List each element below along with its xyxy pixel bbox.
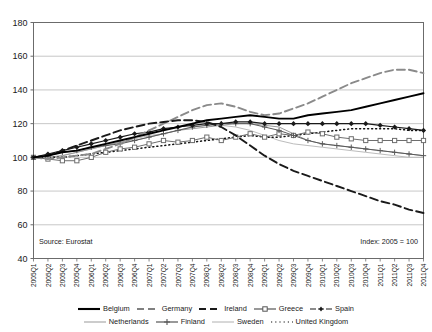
data-point-marker <box>393 138 397 142</box>
x-tick-label: 2010Q2 <box>333 263 341 287</box>
data-point-marker <box>263 135 267 139</box>
x-tick-label: 2006Q2 <box>102 263 110 287</box>
legend-swatch <box>271 318 293 326</box>
y-tick-label: 40 <box>17 254 27 264</box>
x-tick-label: 2010Q4 <box>362 263 370 287</box>
x-tick-label: 2011Q1 <box>377 263 385 286</box>
legend-swatch <box>254 305 276 313</box>
data-point-marker <box>335 135 339 139</box>
legend-swatch <box>78 305 100 313</box>
x-tick-label: 2007Q1 <box>146 263 154 287</box>
x-tick-label: 2009Q2 <box>276 263 284 287</box>
x-tick-label: 2005Q1 <box>30 263 38 287</box>
legend-row-secondary: NetherlandsFinlandSwedenUnited Kingdom <box>0 315 432 328</box>
x-tick-label: 2008Q3 <box>232 263 240 287</box>
legend-item-germany[interactable]: Germany <box>137 305 192 313</box>
legend-item-netherlands[interactable]: Netherlands <box>84 318 149 326</box>
x-tick-label: 2010Q3 <box>348 263 356 287</box>
data-point-marker <box>118 147 122 151</box>
data-point-marker <box>133 145 137 149</box>
legend-item-greece[interactable]: Greece <box>254 305 303 313</box>
legend-item-sweden[interactable]: Sweden <box>212 318 264 326</box>
x-tick-label: 2011Q3 <box>406 263 414 286</box>
data-point-marker <box>421 138 425 142</box>
x-tick-label: 2011Q4 <box>420 263 428 286</box>
data-point-marker <box>190 138 194 142</box>
y-tick-label: 80 <box>17 186 27 196</box>
legend-label: United Kingdom <box>296 318 349 325</box>
legend-label: Sweden <box>237 318 264 325</box>
data-point-marker <box>161 138 165 142</box>
x-tick-label: 2007Q2 <box>160 263 168 287</box>
y-tick-label: 120 <box>12 119 27 129</box>
chart-legend: BelgiumGermanyIrelandGreeceSpain Netherl… <box>0 302 432 328</box>
data-point-marker <box>219 138 223 142</box>
x-tick-label: 2009Q3 <box>290 263 298 287</box>
legend-swatch <box>84 318 106 326</box>
data-point-marker <box>60 159 64 163</box>
legend-label: Germany <box>162 305 192 312</box>
data-point-marker <box>320 132 324 136</box>
data-point-marker <box>364 138 368 142</box>
x-tick-label: 2006Q1 <box>88 263 96 287</box>
x-tick-label: 2011Q2 <box>391 263 399 286</box>
y-tick-label: 140 <box>12 85 27 95</box>
chart-figure: 406080100120140160180 2005Q12005Q22005Q3… <box>0 0 432 332</box>
y-tick-label: 180 <box>12 18 27 28</box>
data-point-marker <box>104 150 108 154</box>
x-tick-label: 2006Q4 <box>131 263 139 287</box>
x-tick-label: 2008Q4 <box>247 263 255 287</box>
legend-row-primary: BelgiumGermanyIrelandGreeceSpain <box>0 302 432 315</box>
x-tick-label: 2005Q2 <box>45 263 53 287</box>
x-tick-label: 2008Q1 <box>203 263 211 287</box>
x-tick-label: 2005Q4 <box>73 263 81 287</box>
y-tick-label: 160 <box>12 51 27 61</box>
y-tick-label: 60 <box>17 220 27 230</box>
data-point-marker <box>378 138 382 142</box>
legend-label: Ireland <box>224 305 247 312</box>
data-point-marker <box>306 130 310 134</box>
legend-item-ireland[interactable]: Ireland <box>199 305 247 313</box>
x-tick-label: 2007Q4 <box>189 263 197 287</box>
x-tick-label: 2008Q2 <box>218 263 226 287</box>
x-tick-label: 2006Q3 <box>117 263 125 287</box>
data-point-marker <box>407 138 411 142</box>
x-tick-label: 2010Q1 <box>319 263 327 287</box>
legend-swatch <box>156 318 178 326</box>
legend-label: Netherlands <box>109 318 149 325</box>
index-note: Index: 2005 = 100 <box>360 237 418 246</box>
legend-swatch <box>199 305 221 313</box>
data-point-marker <box>349 137 353 141</box>
x-tick-label: 2009Q4 <box>305 263 313 287</box>
data-point-marker <box>205 135 209 139</box>
x-tick-label: 2009Q1 <box>261 263 269 287</box>
legend-label: Greece <box>279 305 303 312</box>
source-note: Source: Eurostat <box>39 237 93 246</box>
legend-swatch <box>137 305 159 313</box>
data-point-marker <box>147 142 151 146</box>
data-point-marker <box>89 155 93 159</box>
y-tick-label: 100 <box>12 153 27 163</box>
legend-item-spain[interactable]: Spain <box>310 305 354 313</box>
legend-label: Finland <box>181 318 205 325</box>
data-point-marker <box>248 132 252 136</box>
legend-item-finland[interactable]: Finland <box>156 318 205 326</box>
x-tick-label: 2005Q3 <box>59 263 67 287</box>
legend-item-belgium[interactable]: Belgium <box>78 305 130 313</box>
legend-swatch <box>212 318 234 326</box>
line-chart: 406080100120140160180 2005Q12005Q22005Q3… <box>0 0 432 332</box>
legend-label: Belgium <box>103 305 130 312</box>
data-point-marker <box>75 159 79 163</box>
legend-label: Spain <box>335 305 354 312</box>
x-tick-label: 2007Q3 <box>175 263 183 287</box>
legend-swatch <box>310 305 332 313</box>
data-point-marker <box>176 140 180 144</box>
legend-item-united-kingdom[interactable]: United Kingdom <box>271 318 349 326</box>
